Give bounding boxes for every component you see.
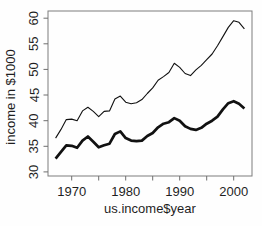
plot-area: 197019801990200030354045505560: [27, 11, 253, 199]
chart-figure: 197019801990200030354045505560 us.income…: [0, 0, 262, 226]
line-chart: 197019801990200030354045505560 us.income…: [0, 0, 262, 226]
y-axis-label: income in $1000: [3, 49, 18, 144]
plot-box: [48, 11, 252, 176]
x-tick-label: 2000: [219, 184, 248, 199]
y-tick-label: 55: [27, 37, 42, 51]
x-axis-label: us.income$year: [104, 201, 196, 216]
series-thin-line: [56, 21, 245, 138]
x-tick-label: 1980: [111, 184, 140, 199]
y-tick-label: 35: [27, 139, 42, 153]
y-tick-label: 40: [27, 113, 42, 127]
x-tick-label: 1970: [57, 184, 86, 199]
y-tick-label: 45: [27, 88, 42, 102]
y-tick-label: 60: [27, 11, 42, 25]
y-tick-label: 30: [27, 165, 42, 179]
y-tick-label: 50: [27, 62, 42, 76]
x-tick-label: 1990: [165, 184, 194, 199]
